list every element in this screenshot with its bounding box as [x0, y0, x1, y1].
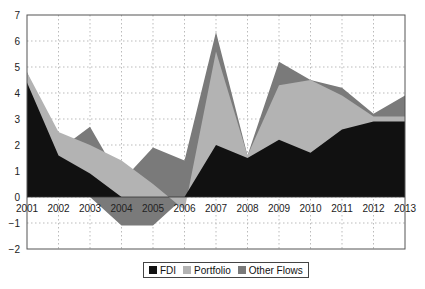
- legend-item-portfolio: Portfolio: [183, 265, 231, 276]
- legend: FDI Portfolio Other Flows: [143, 262, 309, 278]
- y-tick-label: 1: [14, 166, 20, 177]
- x-tick-label: 2011: [331, 203, 353, 214]
- y-tick-label: −1: [9, 218, 21, 229]
- x-tick-label: 2005: [142, 203, 165, 214]
- portfolio-swatch-icon: [183, 266, 191, 274]
- legend-item-fdi: FDI: [149, 265, 176, 276]
- x-tick-label: 2006: [173, 203, 196, 214]
- x-tick-label: 2007: [205, 203, 228, 214]
- legend-label: Other Flows: [249, 265, 303, 276]
- legend-label: FDI: [160, 265, 176, 276]
- area-chart: −2−101234567 200120022003200420052006200…: [0, 0, 425, 289]
- legend-label: Portfolio: [194, 265, 231, 276]
- fdi-swatch-icon: [149, 266, 157, 274]
- x-tick-label: 2003: [79, 203, 102, 214]
- other-flows-swatch-icon: [238, 266, 246, 274]
- y-tick-label: 7: [14, 10, 20, 21]
- x-axis-ticks: 2001200220032004200520062007200820092010…: [16, 203, 417, 214]
- legend-item-other-flows: Other Flows: [238, 265, 303, 276]
- y-tick-label: 0: [14, 192, 20, 203]
- x-tick-label: 2002: [47, 203, 70, 214]
- x-tick-label: 2001: [16, 203, 39, 214]
- y-tick-label: 6: [14, 36, 20, 47]
- x-tick-label: 2004: [110, 203, 133, 214]
- x-tick-label: 2009: [268, 203, 291, 214]
- series-areas: [27, 32, 405, 226]
- y-tick-label: 2: [14, 140, 20, 151]
- y-tick-label: 4: [14, 88, 20, 99]
- y-axis-ticks: −2−101234567: [9, 10, 21, 255]
- y-tick-label: −2: [9, 244, 21, 255]
- x-tick-label: 2013: [394, 203, 417, 214]
- x-tick-label: 2008: [236, 203, 259, 214]
- x-tick-label: 2012: [362, 203, 385, 214]
- x-tick-label: 2010: [299, 203, 322, 214]
- y-tick-label: 3: [14, 114, 20, 125]
- y-tick-label: 5: [14, 62, 20, 73]
